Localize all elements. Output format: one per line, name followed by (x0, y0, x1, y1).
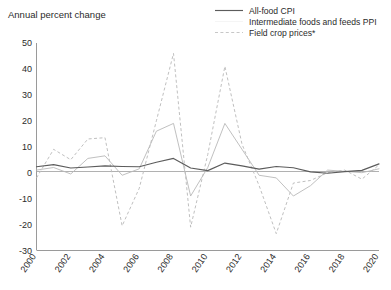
legend-label-all-food-cpi: All-food CPI (249, 6, 295, 16)
y-tick-label: 10 (22, 142, 32, 152)
chart-background (0, 0, 391, 290)
legend-label-intermediate-ppi: Intermediate foods and feeds PPI (249, 17, 377, 27)
axis-title: Annual percent change (8, 9, 106, 20)
chart-container: Annual percent change All-food CPI Inter… (0, 0, 391, 290)
y-tick-label: 0 (27, 168, 32, 178)
legend-label-field-crop-prices: Field crop prices* (249, 28, 316, 38)
y-tick-label: -10 (19, 194, 32, 204)
line-chart: Annual percent change All-food CPI Inter… (0, 0, 391, 290)
y-tick-label: -20 (19, 220, 32, 230)
y-tick-label: 40 (22, 64, 32, 74)
y-tick-label: 50 (22, 38, 32, 48)
y-tick-label: 20 (22, 116, 32, 126)
y-tick-label: 30 (22, 90, 32, 100)
